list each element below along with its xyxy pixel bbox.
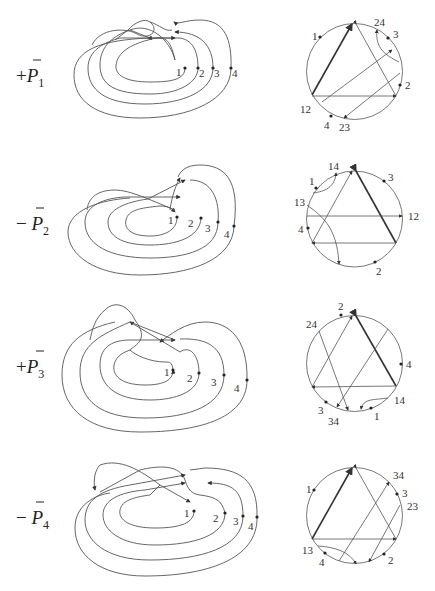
chord-label: 3 xyxy=(402,487,408,499)
curve-diagram-1: 1 2 3 4 xyxy=(74,20,238,118)
curve-label-1: 1 xyxy=(184,507,190,519)
chord-label: 3 xyxy=(393,28,399,40)
chord-label: 34 xyxy=(328,415,340,427)
curve-label-2: 2 xyxy=(188,217,194,229)
chord-label: 1 xyxy=(374,410,380,422)
chord-label: 1 xyxy=(309,175,315,187)
chord-label: 2 xyxy=(338,300,344,312)
row-3-label: +P3 xyxy=(16,356,44,381)
chord-diagram-2: 14 1 3 13 12 4 2 xyxy=(294,160,419,277)
chord-label: 34 xyxy=(393,469,405,481)
chord-label: 4 xyxy=(298,223,304,235)
curve-label-3: 3 xyxy=(205,222,211,234)
row-1-label: +P1 xyxy=(16,65,44,90)
curve-label-3: 3 xyxy=(233,515,239,527)
curve-label-4: 4 xyxy=(248,520,254,532)
curve-label-3: 3 xyxy=(211,376,217,388)
curve-label-4: 4 xyxy=(232,67,238,79)
curve-label-1: 1 xyxy=(164,366,170,378)
chord-label: 2 xyxy=(388,554,394,566)
chord-label: 24 xyxy=(306,318,318,330)
curve-label-4: 4 xyxy=(234,382,240,394)
row-2-label: − P2 xyxy=(16,213,49,238)
curve-label-1: 1 xyxy=(176,66,182,78)
chord-label: 12 xyxy=(300,103,311,115)
chord-diagram-4: 34 1 3 23 13 4 2 xyxy=(302,468,419,569)
curve-label-2: 2 xyxy=(199,67,205,79)
chord-label: 14 xyxy=(328,160,340,172)
row-2: − P2 1 2 3 4 xyxy=(16,160,419,277)
chord-label: 1 xyxy=(312,30,318,42)
curve-label-1: 1 xyxy=(168,214,174,226)
row-1: +P1 1 2 3 4 xyxy=(16,16,411,133)
curve-diagram-3: 1 2 3 4 xyxy=(62,305,249,432)
curve-label-3: 3 xyxy=(214,67,220,79)
chord-label: 4 xyxy=(319,556,325,568)
chord-label: 4 xyxy=(324,119,330,131)
curve-label-2: 2 xyxy=(187,372,193,384)
chord-label: 4 xyxy=(406,358,412,370)
chord-label: 2 xyxy=(405,79,411,91)
chord-label: 23 xyxy=(339,121,351,133)
curve-label-4: 4 xyxy=(224,228,230,240)
chord-label: 12 xyxy=(408,210,419,222)
curve-diagram-4: 1 2 3 4 xyxy=(75,463,259,576)
chord-label: 3 xyxy=(388,171,394,183)
chord-diagram-3: 2 24 4 14 3 34 1 xyxy=(306,300,412,427)
chord-label: 13 xyxy=(294,196,306,208)
chord-label: 24 xyxy=(374,16,386,28)
chord-label: 1 xyxy=(306,483,312,495)
chord-diagram-1: 1 24 3 2 12 4 23 xyxy=(300,16,411,133)
chord-label: 3 xyxy=(318,404,324,416)
row-4: − P4 1 2 3 4 xyxy=(16,463,419,576)
curve-diagram-2: 1 2 3 4 xyxy=(68,165,236,275)
chord-label: 2 xyxy=(376,265,382,277)
curve-label-2: 2 xyxy=(213,512,219,524)
chord-label: 14 xyxy=(394,394,406,406)
figure-canvas: +P1 1 2 3 4 xyxy=(0,0,435,591)
chord-label: 13 xyxy=(302,544,314,556)
row-4-label: − P4 xyxy=(16,507,49,532)
chord-label: 23 xyxy=(407,500,419,512)
row-3: +P3 1 2 3 4 xyxy=(16,300,412,432)
